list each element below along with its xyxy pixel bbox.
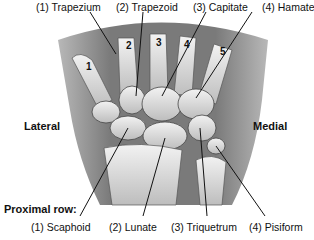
label-scaphoid: (1) Scaphoid [31,221,91,233]
metacarpal-number-2: 2 [126,40,132,51]
label-pisiform: (4) Pisiform [249,221,303,233]
label-trapezoid: (2) Trapezoid [116,1,178,13]
label-triquetrum: (3) Triquetrum [171,221,237,233]
label-capitate: (3) Capitate [193,1,248,13]
metacarpal-number-3: 3 [156,37,162,48]
label-lateral: Lateral [24,120,60,132]
metacarpal-number-5: 5 [220,46,226,57]
metacarpal-number-4: 4 [184,39,190,50]
label-trapezium: (1) Trapezium [36,1,101,13]
label-medial: Medial [253,120,287,132]
proximal-row-title: Proximal row: [4,203,77,215]
label-lunate: (2) Lunate [109,221,157,233]
label-hamate: (4) Hamate [262,1,314,13]
metacarpal-number-1: 1 [86,61,92,72]
